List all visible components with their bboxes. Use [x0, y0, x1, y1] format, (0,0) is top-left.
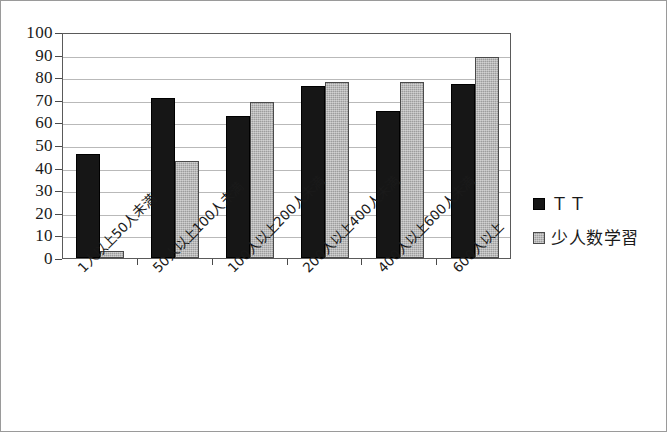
- gridline: [63, 192, 510, 193]
- x-tick-mark: [436, 259, 437, 265]
- y-tick-mark: [55, 236, 62, 237]
- y-tick-label: 50: [9, 137, 53, 154]
- y-tick-mark: [55, 101, 62, 102]
- bar-tt-1: [151, 98, 175, 258]
- bar-tt-5: [451, 84, 475, 258]
- x-tick-mark: [137, 259, 138, 265]
- y-tick-label: 80: [9, 69, 53, 86]
- bar-chart-figure: 1009080706050403020100 1人以上50人未満50人以上100…: [0, 0, 667, 432]
- bar-tt-3: [301, 86, 325, 258]
- gridline: [63, 237, 510, 238]
- chart-legend: ＴＴ少人数学習: [533, 187, 663, 255]
- gridline: [63, 57, 510, 58]
- y-tick-label: 10: [9, 227, 53, 244]
- gridline: [63, 102, 510, 103]
- black-square-swatch: [533, 198, 545, 210]
- legend-label: 少人数学習: [551, 229, 639, 247]
- y-tick-label: 60: [9, 114, 53, 131]
- y-tick-mark: [55, 146, 62, 147]
- y-tick-label: 0: [9, 250, 53, 267]
- y-tick-label: 100: [9, 24, 53, 41]
- gridline: [63, 124, 510, 125]
- y-tick-mark: [55, 214, 62, 215]
- gridline: [63, 147, 510, 148]
- y-tick-mark: [55, 78, 62, 79]
- legend-item-1: 少人数学習: [533, 221, 663, 255]
- y-tick-label: 90: [9, 47, 53, 64]
- x-tick-mark: [212, 259, 213, 265]
- y-tick-mark: [55, 191, 62, 192]
- legend-label: ＴＴ: [551, 195, 586, 213]
- x-tick-mark: [287, 259, 288, 265]
- gridline: [63, 170, 510, 171]
- y-tick-label: 30: [9, 182, 53, 199]
- gridline: [63, 79, 510, 80]
- y-tick-mark: [55, 259, 62, 260]
- y-tick-label: 20: [9, 205, 53, 222]
- y-tick-mark: [55, 123, 62, 124]
- gray-square-swatch: [533, 232, 545, 244]
- y-tick-label: 40: [9, 160, 53, 177]
- y-tick-mark: [55, 169, 62, 170]
- y-tick-mark: [55, 56, 62, 57]
- legend-item-0: ＴＴ: [533, 187, 663, 221]
- y-tick-label: 70: [9, 92, 53, 109]
- y-tick-mark: [55, 33, 62, 34]
- x-tick-mark: [361, 259, 362, 265]
